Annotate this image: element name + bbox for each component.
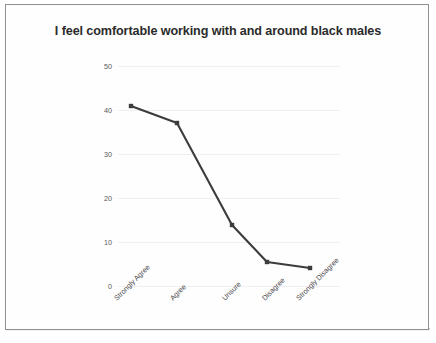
line-series [0, 0, 436, 343]
data-point-agree [175, 121, 179, 125]
data-point-disagree [265, 260, 269, 264]
data-point-strongly-disagree [308, 266, 312, 270]
data-point-strongly-agree [129, 104, 133, 108]
series-line [131, 106, 310, 268]
data-point-unsure [230, 223, 234, 227]
chart-plot-area: 50 40 30 20 10 0 Strongly Agree Agree Un… [0, 0, 436, 343]
